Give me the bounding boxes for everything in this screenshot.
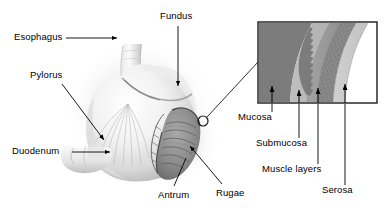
label-duodenum: Duodenum xyxy=(12,146,59,156)
stomach-anatomy-figure: Esophagus Fundus Pylorus Duodenum Antrum… xyxy=(0,0,386,211)
label-fundus: Fundus xyxy=(160,11,192,21)
label-esophagus: Esophagus xyxy=(14,32,62,42)
label-pylorus: Pylorus xyxy=(30,70,62,80)
label-antrum: Antrum xyxy=(158,190,189,200)
label-rugae: Rugae xyxy=(216,188,245,198)
label-submucosa: Submucosa xyxy=(256,138,307,148)
label-serosa: Serosa xyxy=(322,185,353,195)
label-mucosa: Mucosa xyxy=(238,112,272,122)
label-muscle-layers: Muscle layers xyxy=(262,164,321,174)
